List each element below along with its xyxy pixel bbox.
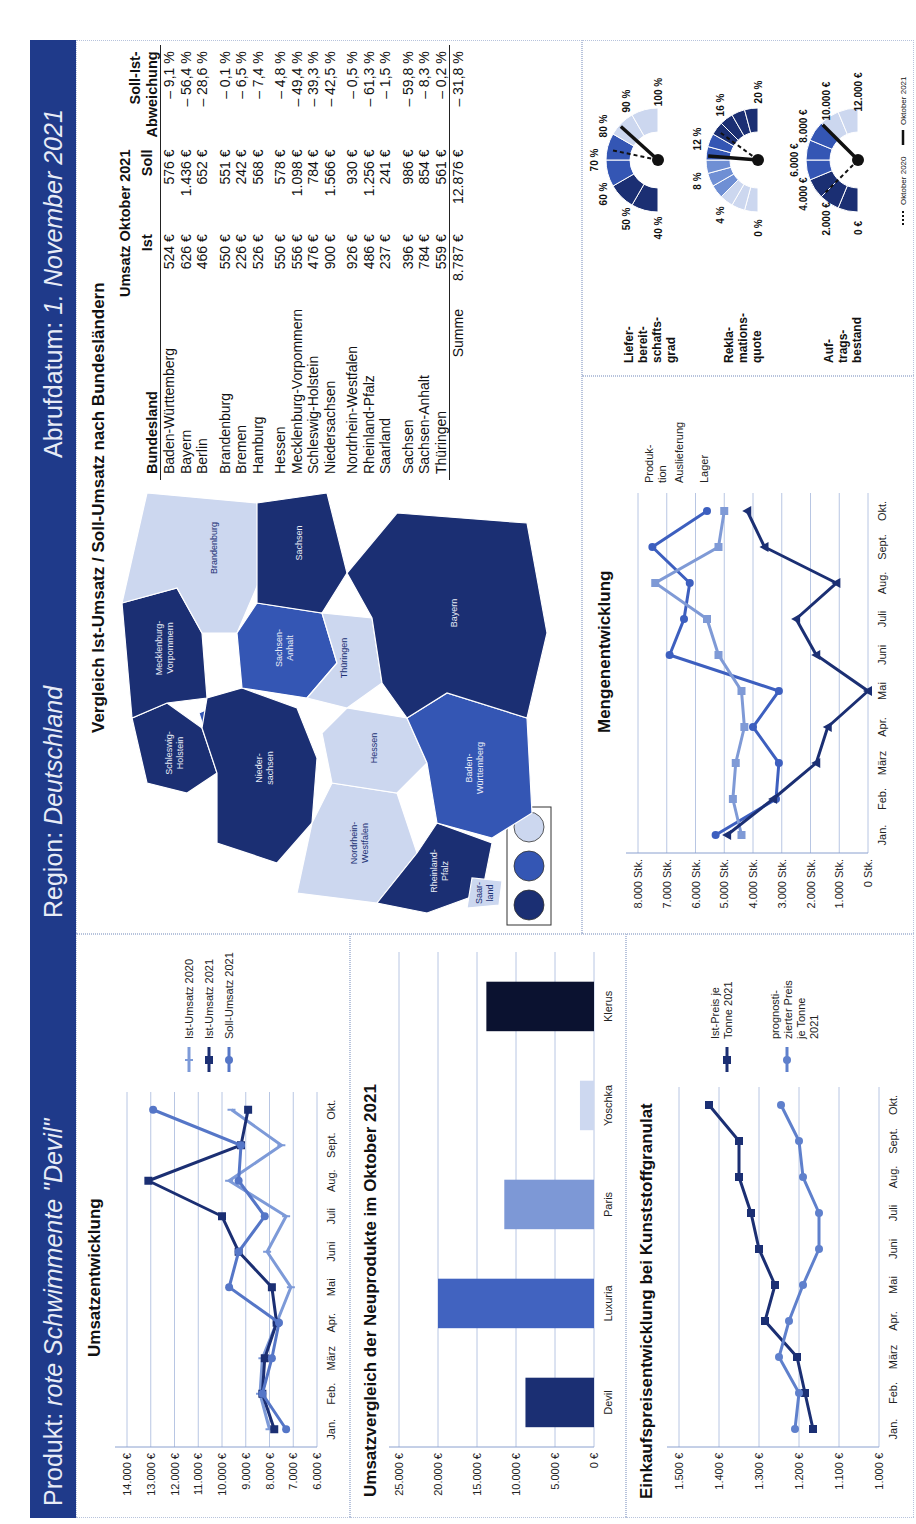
svg-text:Lager: Lager [698,455,710,483]
svg-text:tion: tion [656,465,668,483]
cell-dev: – 6,5 % [233,45,250,143]
germany-map: Schleswig-HolsteinMecklenburg-Vorpommern… [107,493,577,933]
svg-text:60 %: 60 % [598,182,609,205]
svg-text:Juli: Juli [325,1208,337,1225]
map-region-bw[interactable]: Baden-Württemberg [407,693,532,838]
svg-text:10.000 €: 10.000 € [216,1453,228,1496]
revenue-line-chart: 6.000 €7.000 €8.000 €9.000 €10.000 €11.0… [77,933,351,1517]
cell-ist: 476 € [305,228,322,303]
map-region-sn[interactable]: Sachsen [257,493,347,613]
region-value: Deutschland [39,686,67,825]
svg-text:Apr.: Apr. [887,1311,899,1331]
region-info: Region: Deutschland [39,686,68,918]
svg-text:8.000 €: 8.000 € [264,1453,276,1490]
map-title: Vergleich Ist-Umsatz / Soll-Umsatz nach … [89,282,109,733]
svg-text:10.000 €: 10.000 € [821,81,832,120]
col-bundesland: Bundesland [134,303,161,480]
date-info: Abrufdatum: 1. November 2021 [39,109,68,458]
table-row: Nordrhein-Westfalen926 €930 €– 0,5 % [344,45,361,480]
svg-text:3.000 Stk.: 3.000 Stk. [776,859,788,909]
cell-ist: 524 € [161,228,178,303]
svg-text:Schleswig-: Schleswig- [164,731,174,775]
svg-text:Juni: Juni [325,1242,337,1262]
panel-neuprodukte: Umsatzvergleich der Neuprodukte im Oktob… [350,934,626,1518]
cell-soll: 1.566 € [322,144,339,229]
svg-text:Apr.: Apr. [325,1313,337,1333]
table-row: Rheinland-Pfalz486 €1.256 €– 61,3 % [361,45,378,480]
cell-soll: 652 € [194,144,211,229]
cell-land: Nordrhein-Westfalen [344,303,361,480]
svg-text:Mai: Mai [325,1278,337,1296]
svg-text:Feb.: Feb. [876,788,888,810]
svg-text:Devil: Devil [602,1390,614,1414]
svg-text:grad: grad [664,337,678,363]
table-row: Hessen550 €578 €– 4,8 % [272,45,289,480]
svg-text:Ist-Umsatz 2020: Ist-Umsatz 2020 [183,959,195,1039]
col-deviation: Soll-Ist- Abweichung [117,45,161,143]
cell-dev: – 61,3 % [361,45,378,143]
cell-land: Mecklenburg-Vorpommern [289,303,306,480]
svg-text:80 %: 80 % [598,114,609,137]
svg-text:Okt.: Okt. [325,1100,337,1120]
svg-text:land: land [485,884,495,901]
cell-soll: 1.098 € [289,144,306,229]
purchase-price-line-chart: 1.000 €1.100 €1.200 €1.300 €1.400 €1.500… [627,933,915,1517]
map-region-sl[interactable]: Saar-land [467,878,502,908]
svg-text:4.000 Stk.: 4.000 Stk. [747,859,759,909]
svg-text:14.000 €: 14.000 € [121,1453,133,1496]
svg-text:Saar-: Saar- [474,882,484,904]
cell-ist: 559 € [433,228,450,303]
svg-text:Württemberg: Württemberg [475,742,485,794]
svg-text:schafts-: schafts- [650,317,664,363]
group-header: Umsatz Oktober 2021 [117,144,134,303]
svg-text:11.000 €: 11.000 € [192,1453,204,1495]
bar-klerus [486,982,594,1031]
region-label: Region: [39,832,67,918]
svg-text:mations-: mations- [736,313,750,363]
svg-text:Rheinland-: Rheinland- [429,849,439,893]
cell-land: Schleswig-Holstein [305,303,322,480]
bar-yoschka [580,1081,594,1131]
cell-land: Berlin [194,303,211,480]
svg-text:9.000 €: 9.000 € [240,1453,252,1490]
svg-text:8.000 Stk.: 8.000 Stk. [632,859,644,909]
table-row: Saarland237 €241 €– 1,5 % [377,45,394,480]
svg-text:0 €: 0 € [588,1453,600,1468]
svg-text:7.000 Stk.: 7.000 Stk. [661,859,673,909]
cell-soll: 1.256 € [361,144,378,229]
cell-dev: – 0,1 % [217,45,234,143]
panel-map-table: Vergleich Ist-Umsatz / Soll-Umsatz nach … [76,40,582,934]
svg-text:8.000 €: 8.000 € [798,109,809,143]
series-lager [722,506,872,840]
cell-land: Niedersachsen [322,303,339,480]
svg-text:Oktober 2021: Oktober 2021 [899,76,908,125]
map-region-ni[interactable]: Nieder-sachsen [202,688,317,863]
cell-land: Bremen [233,303,250,480]
panel-einkaufspreis: Einkaufspreisentwicklung bei Kunststoffg… [626,934,914,1518]
cell-ist: 396 € [400,228,417,303]
svg-text:90 %: 90 % [621,90,632,113]
svg-text:25.000 €: 25.000 € [393,1453,405,1496]
series-ist-umsatz-2020 [225,1110,295,1430]
svg-text:sachsen: sachsen [265,751,275,785]
svg-text:2021: 2021 [808,1015,820,1039]
cell-soll: 576 € [161,144,178,229]
svg-text:Vorpommern: Vorpommern [165,622,175,674]
svg-text:Paris: Paris [602,1191,614,1217]
col-ist: Ist [134,228,161,303]
svg-text:Juli: Juli [876,611,888,628]
table-row: Brandenburg550 €551 €– 0,1 % [217,45,234,480]
cell-soll: 242 € [233,144,250,229]
svg-text:0 Stk.: 0 Stk. [862,859,874,887]
gauge-2: Auf-trags-bestand0 €2.000 €4.000 €6.000 … [789,72,864,363]
svg-text:prognosti-: prognosti- [769,990,781,1039]
cell-land: Saarland [377,303,394,480]
svg-text:Sachsen-: Sachsen- [274,629,284,667]
svg-text:1.300 €: 1.300 € [753,1453,765,1490]
cell-land: Sachsen [400,303,417,480]
cell-ist: 556 € [289,228,306,303]
cell-soll: 930 € [344,144,361,229]
svg-text:5.000 Stk.: 5.000 Stk. [718,859,730,909]
svg-text:zierter Preis: zierter Preis [782,980,794,1039]
svg-text:15.000 €: 15.000 € [471,1453,483,1496]
